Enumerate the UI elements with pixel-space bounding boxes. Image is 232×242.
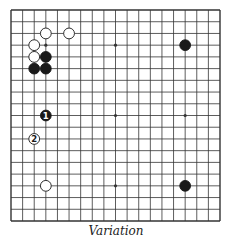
white-stone-2: 2	[29, 134, 40, 145]
black-stone	[180, 180, 191, 191]
black-stone	[29, 63, 40, 74]
star-point	[114, 114, 117, 117]
stones: 12	[29, 28, 191, 191]
black-stone	[40, 51, 51, 62]
black-stone	[40, 63, 51, 74]
diagram-caption: Variation	[0, 224, 232, 238]
star-point	[184, 114, 187, 117]
move-number: 1	[43, 111, 49, 121]
white-stone	[29, 40, 40, 51]
white-stone	[64, 28, 75, 39]
go-board: 12	[0, 0, 232, 224]
star-point	[114, 44, 117, 47]
move-number: 2	[31, 134, 37, 144]
white-stone	[40, 180, 51, 191]
black-stone-1: 1	[40, 110, 51, 121]
star-point	[44, 44, 47, 47]
star-point	[114, 184, 117, 187]
white-stone	[29, 51, 40, 62]
white-stone	[40, 28, 51, 39]
black-stone	[180, 40, 191, 51]
